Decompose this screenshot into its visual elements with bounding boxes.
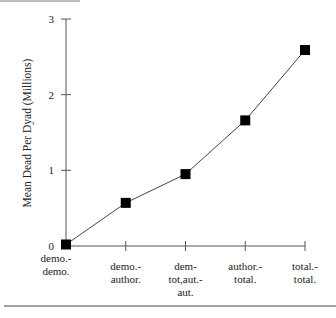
- x-category-label: demo.-: [110, 260, 141, 272]
- x-category-label: total.-: [292, 260, 318, 272]
- y-tick-label: 0: [49, 240, 55, 252]
- line-chart: 0123demo.-demo.demo.-author.dem-tot,aut.…: [0, 0, 336, 318]
- x-category-label: total.: [294, 273, 317, 285]
- data-point-square-marker: [121, 198, 131, 208]
- cropped-text-fragment: [0, 0, 80, 2]
- data-point-square-marker: [240, 115, 250, 125]
- x-category-label: total.: [234, 273, 257, 285]
- y-tick-label: 3: [49, 13, 55, 25]
- data-point-square-marker: [61, 239, 71, 249]
- data-series: [61, 45, 310, 249]
- data-point-square-marker: [300, 45, 310, 55]
- x-category-label: demo.-: [41, 252, 72, 264]
- x-category-label: author.: [111, 273, 141, 285]
- x-category-label: author.-: [228, 260, 262, 272]
- x-category-label: dem-: [174, 260, 197, 272]
- y-tick-label: 1: [49, 164, 55, 176]
- y-tick-label: 2: [49, 89, 55, 101]
- axes: 0123demo.-demo.demo.-author.dem-tot,aut.…: [41, 13, 319, 298]
- x-category-label: tot,aut.-: [168, 273, 203, 285]
- x-category-label: aut.: [177, 286, 193, 298]
- x-category-label: demo.: [42, 265, 69, 277]
- y-axis-label: Mean Dead Per Dyad (Millions): [21, 58, 34, 207]
- series-line: [66, 50, 305, 244]
- data-point-square-marker: [181, 169, 191, 179]
